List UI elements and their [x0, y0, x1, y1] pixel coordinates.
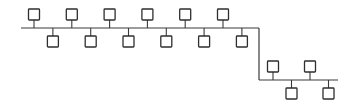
terminal-node-n13	[268, 61, 279, 72]
terminal-node-n9	[180, 9, 191, 20]
terminal-node-n6	[123, 36, 134, 47]
terminal-node-n1	[29, 9, 40, 20]
terminal-node-n4	[85, 36, 96, 47]
bus-lines	[21, 28, 338, 80]
node-stubs	[34, 20, 329, 88]
terminal-node-n8	[161, 36, 172, 47]
terminal-node-n12	[236, 36, 247, 47]
terminal-node-n2	[47, 36, 58, 47]
terminal-node-n10	[199, 36, 210, 47]
bus-topology-diagram	[0, 0, 353, 105]
terminal-node-n7	[142, 9, 153, 20]
terminal-node-n14	[286, 88, 297, 99]
terminal-node-n15	[305, 61, 316, 72]
terminal-node-n11	[218, 9, 229, 20]
terminal-nodes	[29, 9, 335, 99]
terminal-node-n16	[323, 88, 334, 99]
terminal-node-n3	[66, 9, 77, 20]
terminal-node-n5	[104, 9, 115, 20]
